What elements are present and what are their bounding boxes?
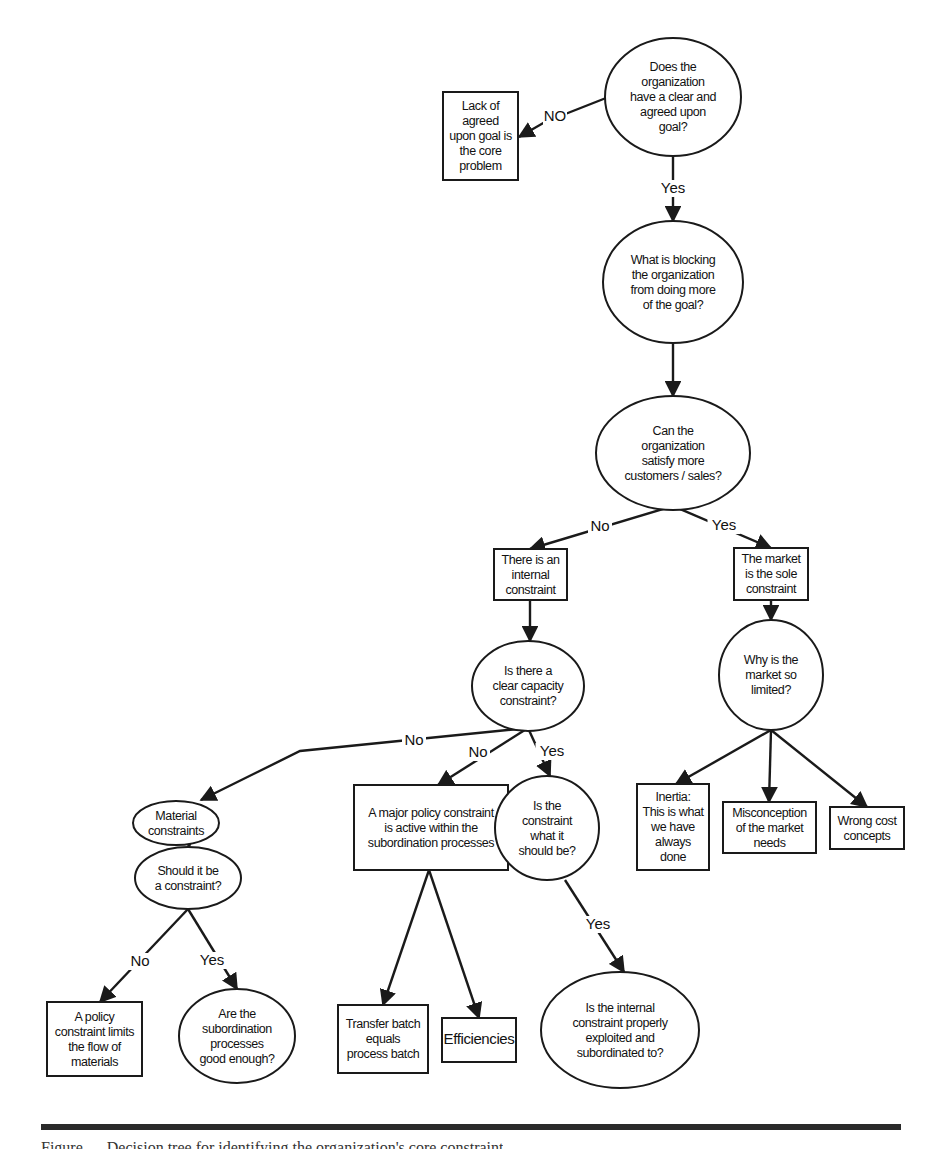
node-text-line: a constraint? bbox=[155, 879, 222, 893]
node-customers_q: Can theorganizationsatisfy morecustomers… bbox=[596, 396, 750, 510]
edge-goal_q-to-blocking_q: Yes bbox=[657, 157, 690, 221]
arrow-icon bbox=[188, 909, 237, 989]
edge-label: Yes bbox=[712, 516, 736, 533]
edge-should_q-to-subordination_q: Yes bbox=[188, 909, 237, 989]
node-text-line: Can the bbox=[653, 424, 694, 438]
node-text-line: organization bbox=[641, 439, 705, 453]
node-text-line: problem bbox=[459, 159, 501, 173]
node-text-line: is the sole bbox=[745, 567, 797, 581]
node-capacity_q: Is there aclear capacityconstraint? bbox=[472, 641, 584, 731]
node-text-line: Why is the bbox=[744, 653, 799, 667]
node-text-line: limited? bbox=[751, 683, 791, 697]
edge-label: No bbox=[468, 743, 487, 760]
node-text-line: the organization bbox=[632, 268, 715, 282]
figure-caption: Figure — Decision tree for identifying t… bbox=[41, 1139, 503, 1149]
edge-goal_q-to-no_goal: NO bbox=[519, 98, 606, 137]
edge-label: Yes bbox=[661, 179, 685, 196]
node-text-line: the core bbox=[460, 144, 502, 158]
node-misconception: Misconceptionof the marketneeds bbox=[723, 802, 816, 853]
node-text-line: Is there a bbox=[504, 664, 553, 678]
node-text-line: constraints bbox=[148, 824, 204, 838]
node-inertia: Inertia:This is whatwe havealwaysdone bbox=[637, 784, 709, 870]
node-goal_q: Does theorganizationhave a clear andagre… bbox=[605, 38, 741, 156]
node-text-line: from doing more bbox=[630, 283, 715, 297]
node-text-line: This is what bbox=[642, 805, 704, 819]
node-efficiencies: Efficiencies bbox=[442, 1018, 516, 1062]
edge-label: No bbox=[130, 952, 149, 969]
node-text-line: of the market bbox=[736, 821, 805, 835]
arrow-icon bbox=[383, 870, 429, 1005]
node-text-line: we have bbox=[650, 820, 695, 834]
node-policy_flow: A policyconstraint limitsthe flow ofmate… bbox=[47, 1002, 142, 1076]
node-text-line: A major policy constraint bbox=[368, 806, 494, 820]
node-text-line: concepts bbox=[844, 829, 891, 843]
node-text-line: subordinated to? bbox=[577, 1046, 664, 1060]
node-wrong_cost: Wrong costconcepts bbox=[830, 807, 904, 849]
node-text-line: goal? bbox=[659, 120, 688, 134]
node-exploited_q: Is the internalconstraint properlyexploi… bbox=[541, 972, 699, 1088]
edge-label: No bbox=[590, 517, 609, 534]
edge-market_q-to-inertia bbox=[676, 730, 771, 784]
node-text-line: have a clear and bbox=[630, 90, 716, 104]
node-text-line: always bbox=[655, 835, 691, 849]
node-text-line: process batch bbox=[347, 1047, 420, 1061]
arrow-icon bbox=[771, 730, 867, 807]
edge-label: No bbox=[404, 731, 423, 748]
arrow-icon bbox=[676, 730, 771, 784]
node-text-line: done bbox=[660, 850, 687, 864]
edge-policy_major-to-transfer_batch bbox=[383, 870, 429, 1005]
node-subordination_q: Are thesubordinationprocessesgood enough… bbox=[179, 989, 295, 1083]
node-text-line: constraint bbox=[746, 582, 797, 596]
decision-tree-diagram: NOYesNoYesNoNoYesNoYesYes Does theorgani… bbox=[0, 0, 949, 1149]
node-text-line: Lack of bbox=[462, 99, 500, 113]
node-text-line: materials bbox=[71, 1055, 118, 1069]
node-text-line: Does the bbox=[650, 60, 697, 74]
edge-label: Yes bbox=[200, 951, 224, 968]
node-text-line: A policy bbox=[75, 1010, 116, 1024]
node-text-line: Are the bbox=[218, 1007, 256, 1021]
arrow-icon bbox=[769, 730, 771, 802]
node-text-line: constraint? bbox=[500, 694, 557, 708]
node-text-line: Is the bbox=[533, 799, 562, 813]
node-text-line: Misconception bbox=[732, 806, 807, 820]
node-text-line: Material bbox=[155, 809, 196, 823]
node-text-line: constraint limits bbox=[55, 1025, 134, 1039]
node-text-line: Transfer batch bbox=[346, 1017, 421, 1031]
node-text-line: internal bbox=[512, 568, 550, 582]
node-text-line: What is blocking bbox=[631, 253, 716, 267]
node-blocking_q: What is blockingthe organizationfrom doi… bbox=[603, 221, 743, 343]
node-material: Materialconstraints bbox=[133, 801, 219, 845]
node-text-line: constraint bbox=[505, 583, 556, 597]
node-text-line: Should it be bbox=[157, 864, 219, 878]
node-no_goal: Lack ofagreedupon goal isthe coreproblem bbox=[443, 92, 518, 180]
node-market_q: Why is themarket solimited? bbox=[719, 620, 823, 730]
edge-should_q-to-policy_flow: No bbox=[100, 909, 188, 1002]
node-text-line: subordination bbox=[202, 1022, 272, 1036]
node-text-line: Inertia: bbox=[655, 790, 690, 804]
nodes-layer: Does theorganizationhave a clear andagre… bbox=[47, 38, 904, 1088]
edge-label: Yes bbox=[586, 915, 610, 932]
node-text-line: Is the internal bbox=[585, 1001, 654, 1015]
node-text-line: should be? bbox=[518, 844, 576, 858]
node-text-line: needs bbox=[753, 836, 785, 850]
node-text-line: constraint properly bbox=[572, 1016, 668, 1030]
node-text-line: agreed bbox=[462, 114, 499, 128]
node-policy_major: A major policy constraintis active withi… bbox=[354, 785, 508, 870]
edge-label: Yes bbox=[540, 742, 564, 759]
node-text-line: There is an bbox=[501, 553, 560, 567]
node-what_should_q: Is theconstraintwhat itshould be? bbox=[495, 776, 599, 880]
edge-market_q-to-wrong_cost bbox=[771, 730, 867, 807]
node-text-line: Wrong cost bbox=[838, 814, 898, 828]
edge-capacity_q-to-what_should_q: Yes bbox=[528, 728, 569, 776]
edge-policy_major-to-efficiencies bbox=[429, 870, 479, 1018]
node-text-line: organization bbox=[641, 75, 705, 89]
node-internal: There is aninternalconstraint bbox=[494, 549, 567, 600]
node-text-line: subordination processes bbox=[368, 836, 494, 850]
node-text-line: what it bbox=[529, 829, 564, 843]
node-text-line: processes bbox=[210, 1037, 264, 1051]
node-text-line: The market bbox=[741, 552, 801, 566]
edge-label: NO bbox=[544, 107, 567, 124]
node-text-line: agreed upon bbox=[640, 105, 706, 119]
bottom-rule bbox=[41, 1124, 901, 1130]
node-text-line: upon goal is bbox=[449, 129, 512, 143]
